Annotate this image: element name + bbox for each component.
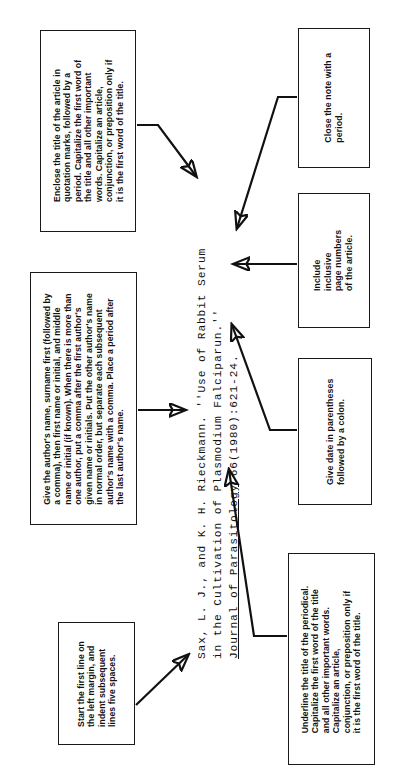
callout-first-line[interactable]: Start the first line on the left margin,… [58, 622, 135, 745]
callout-date-text: Give date in parentheses followed by a c… [324, 378, 345, 485]
callout-periodical[interactable]: Underline the title of the periodical. C… [288, 553, 375, 765]
arrow-periodical [229, 470, 287, 636]
callout-first-line-text: Start the first line on the left margin,… [76, 641, 118, 727]
callout-page-numbers[interactable]: Include inclusive page numbers of the ar… [298, 193, 370, 328]
callout-date[interactable]: Give date in parentheses followed by a c… [298, 358, 372, 505]
callout-author-name[interactable]: Give the author's name, surname first (f… [30, 272, 137, 525]
callout-author-name-text: Give the author's name, surname first (f… [42, 293, 126, 505]
arrow-close-note [237, 97, 297, 228]
arrow-first-line [136, 655, 188, 705]
callout-close-note-text: Close the note with a period. [323, 53, 344, 143]
callout-page-numbers-text: Include inclusive page numbers of the ar… [313, 230, 356, 291]
diagram-canvas: Sax, L. J., and K. H. Rieckmann. ''Use o… [0, 0, 408, 771]
callout-article-title[interactable]: Enclose the title of the article in quot… [40, 30, 136, 232]
callout-periodical-text: Underline the title of the periodical. C… [300, 585, 363, 733]
arrow-article-title [137, 125, 196, 176]
arrow-date [232, 325, 297, 430]
callout-close-note[interactable]: Close the note with a period. [298, 28, 370, 168]
callout-article-title-text: Enclose the title of the article in quot… [51, 60, 124, 202]
